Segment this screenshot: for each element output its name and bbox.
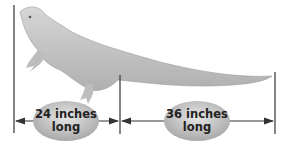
arrowhead-right-icon: [264, 118, 274, 125]
iguana-illustration: [20, 7, 272, 104]
segment-label-36: 36 inches long: [162, 108, 232, 134]
arrowhead-right-icon: [109, 118, 119, 125]
arrowhead-left-icon: [121, 118, 131, 125]
segment-label-24: 24 inches long: [31, 108, 101, 134]
segment-label-line2: long: [162, 121, 232, 134]
arrowhead-left-icon: [15, 118, 25, 125]
segment-label-line2: long: [31, 121, 101, 134]
